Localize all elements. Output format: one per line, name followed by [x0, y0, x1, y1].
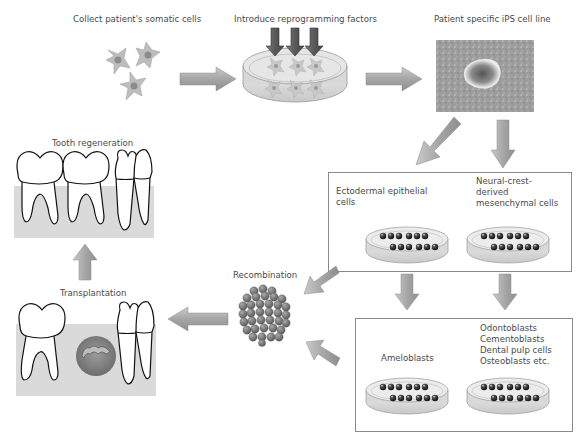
odontoblasts-label: Odontoblasts Cementoblasts Dental pulp c…: [480, 323, 552, 367]
regenerated-teeth-illustration: [12, 148, 156, 240]
recombinant-tooth-germ-cluster: [236, 285, 292, 347]
arrow-ips-to-ectodermal: [414, 115, 462, 167]
ameloblasts-label: Ameloblasts: [381, 353, 434, 364]
arrow-reprogram-to-ips: [364, 66, 424, 92]
ectodermal-epithelial-label: Ectodermal epithelial cells: [336, 186, 427, 208]
transplantation-label: Transplantation: [60, 288, 126, 299]
reprogramming-label: Introduce reprogramming factors: [234, 14, 377, 25]
collect-cells-label: Collect patient's somatic cells: [73, 14, 201, 25]
ips-colony-micrograph: [436, 40, 534, 112]
odontoblasts-dish: [465, 370, 551, 416]
recombination-label: Recombination: [233, 270, 297, 281]
transplantation-illustration: [14, 300, 158, 400]
somatic-cells-illustration: [100, 38, 180, 108]
arrow-neural-crest-to-odontoblasts: [492, 272, 518, 312]
arrow-transplantation-to-regeneration: [72, 242, 98, 282]
ips-cell-line-label: Patient specific iPS cell line: [434, 14, 551, 25]
neural-crest-mesenchymal-label: Neural-crest- derived mesenchymal cells: [476, 176, 558, 209]
arrow-ips-to-neural-crest: [490, 118, 516, 170]
mesenchymal-cells-dish: [465, 219, 551, 265]
arrow-collect-to-reprogram: [178, 66, 238, 92]
ameloblasts-dish: [364, 370, 450, 416]
arrow-progenitors-to-recombination: [302, 264, 340, 300]
reprogramming-dish-illustration: [240, 26, 350, 106]
arrow-recombination-to-transplantation: [166, 306, 230, 332]
arrow-differentiated-to-recombination: [304, 336, 342, 368]
arrow-ectodermal-to-ameloblasts: [394, 272, 420, 312]
ectodermal-cells-dish: [364, 219, 450, 265]
